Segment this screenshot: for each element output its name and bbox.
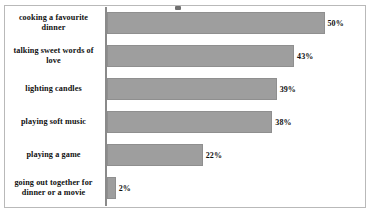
chart-frame: cooking a favourite dinner 50% talking s… [4, 5, 366, 208]
bar-row: going out together for dinner or a movie… [5, 172, 365, 204]
bar-container: 22% [107, 139, 363, 171]
bar-value-label: 39% [280, 85, 296, 94]
bar-value-label: 50% [328, 19, 344, 28]
category-label: going out together for dinner or a movie [7, 172, 103, 204]
bar-value-label: 43% [297, 52, 313, 61]
plot-area: cooking a favourite dinner 50% talking s… [5, 6, 365, 207]
bar-row: cooking a favourite dinner 50% [5, 7, 365, 39]
category-label: talking sweet words of love [7, 40, 103, 72]
bar-row: talking sweet words of love 43% [5, 40, 365, 72]
category-label: playing soft music [7, 106, 103, 138]
category-label: playing a game [7, 139, 103, 171]
bar-segment [107, 78, 277, 100]
bar-value-label: 38% [275, 118, 291, 127]
bar-value-label: 22% [206, 151, 222, 160]
bar-segment [107, 144, 203, 166]
bar-container: 38% [107, 106, 363, 138]
bar-value-label: 2% [119, 184, 131, 193]
bar-container: 2% [107, 172, 363, 204]
bar-row: playing a game 22% [5, 139, 365, 171]
bar-container: 43% [107, 40, 363, 72]
bar-row: lighting candles 39% [5, 73, 365, 105]
bar-segment [107, 45, 294, 67]
bar-container: 39% [107, 73, 363, 105]
bar-segment [107, 177, 116, 199]
bar-container: 50% [107, 7, 363, 39]
category-label: lighting candles [7, 73, 103, 105]
bar-segment [107, 12, 325, 34]
bar-row: playing soft music 38% [5, 106, 365, 138]
bar-segment [107, 111, 272, 133]
category-label: cooking a favourite dinner [7, 7, 103, 39]
